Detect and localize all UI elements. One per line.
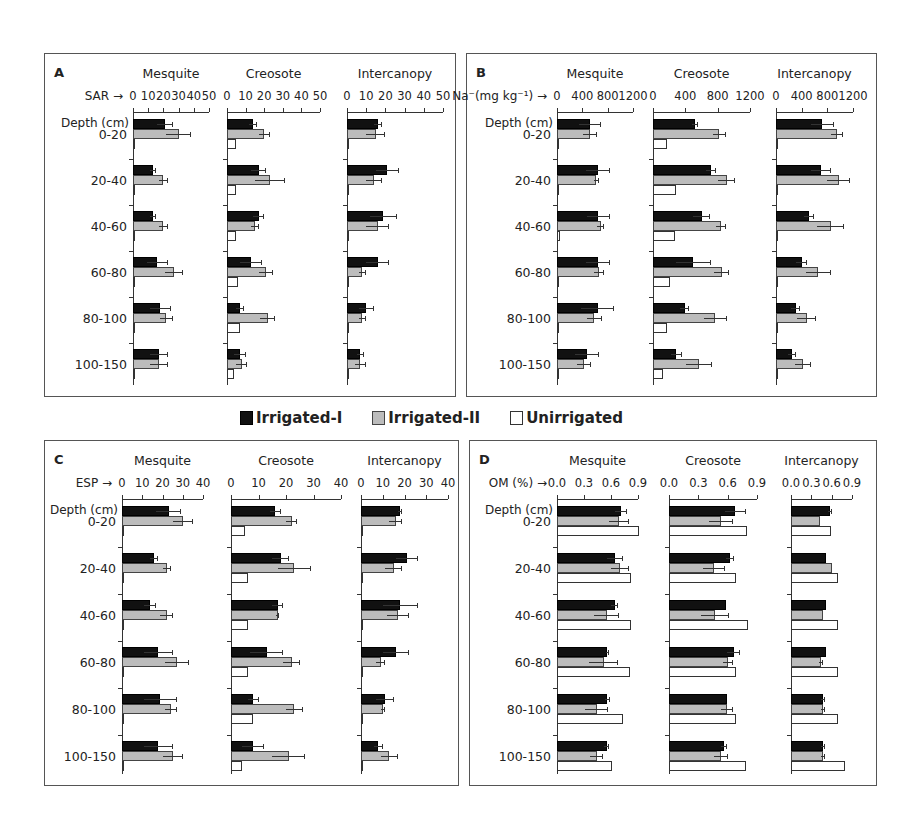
x-tick — [424, 108, 425, 112]
depth-label: 60-80 — [481, 655, 551, 670]
y-tick — [772, 251, 776, 252]
error-bar — [250, 652, 283, 653]
y-tick — [665, 641, 669, 642]
subplot-title: Creosote — [663, 453, 763, 468]
bar-irrigated-ii — [653, 175, 727, 185]
error-bar — [165, 272, 183, 273]
bar-unirrigated — [557, 620, 631, 630]
y-axis — [557, 112, 558, 385]
x-tick-label: 20 — [156, 89, 171, 103]
x-tick — [231, 495, 232, 499]
x-tick-label: 0 — [118, 476, 125, 490]
x-tick — [246, 108, 247, 112]
bar-unirrigated — [669, 620, 748, 630]
error-bar — [819, 662, 823, 663]
bar-irrigated-i — [669, 647, 734, 657]
bar-unirrigated — [122, 620, 124, 630]
x-tick — [366, 108, 367, 112]
x-tick — [183, 495, 184, 499]
error-bar — [396, 558, 418, 559]
bar-unirrigated — [122, 761, 124, 771]
x-axis — [133, 112, 209, 113]
x-tick — [608, 108, 609, 112]
bar-unirrigated — [791, 573, 838, 583]
error-bar — [676, 262, 712, 263]
bar-unirrigated — [231, 573, 248, 583]
x-tick — [728, 495, 729, 499]
x-tick-label: 400 — [674, 89, 696, 103]
y-tick — [129, 205, 133, 206]
x-tick — [405, 495, 406, 499]
depth-label: 60-80 — [481, 265, 551, 280]
y-tick — [118, 641, 122, 642]
error-bar — [827, 180, 850, 181]
x-tick — [385, 108, 386, 112]
error-bar — [577, 364, 591, 365]
y-tick — [227, 641, 231, 642]
depth-label: 40-60 — [481, 608, 551, 623]
bar-irrigated-ii — [791, 563, 832, 573]
bar-irrigated-ii — [231, 704, 294, 714]
depth-label: 20-40 — [481, 561, 551, 576]
subplot-title: Intercanopy — [772, 453, 872, 468]
y-tick — [357, 547, 361, 548]
error-bar — [585, 709, 608, 710]
x-tick-label: 40 — [294, 89, 309, 103]
x-tick — [179, 108, 180, 112]
x-tick-label: 1200 — [618, 89, 647, 103]
bar-unirrigated — [669, 761, 746, 771]
x-tick-label: 40 — [441, 476, 456, 490]
y-tick — [787, 641, 791, 642]
bar-unirrigated — [557, 573, 631, 583]
error-bar — [611, 568, 629, 569]
error-bar — [150, 216, 156, 217]
bar-irrigated-ii — [653, 221, 721, 231]
x-tick — [341, 495, 342, 499]
x-tick — [653, 108, 654, 112]
error-bar — [357, 354, 365, 355]
y-tick — [787, 688, 791, 689]
x-tick-label: 10 — [141, 89, 156, 103]
y-tick — [649, 159, 653, 160]
y-tick — [223, 205, 227, 206]
bar-unirrigated — [133, 369, 135, 379]
error-bar — [389, 521, 402, 522]
error-bar — [366, 262, 389, 263]
bar-unirrigated — [133, 277, 135, 287]
subplot-title: Mesquite — [113, 453, 213, 468]
error-bar — [718, 180, 736, 181]
y-tick — [118, 547, 122, 548]
bar-unirrigated — [776, 277, 778, 287]
x-axis — [231, 499, 341, 500]
error-bar — [366, 180, 381, 181]
x-axis — [653, 112, 750, 113]
error-bar — [821, 756, 825, 757]
error-bar — [159, 180, 168, 181]
y-axis — [347, 112, 348, 385]
x-axis — [791, 499, 852, 500]
error-bar — [249, 124, 256, 125]
error-bar — [671, 354, 682, 355]
bar-unirrigated — [776, 139, 778, 149]
y-tick — [665, 594, 669, 595]
bar-unirrigated — [557, 526, 639, 536]
x-tick-label: 10 — [238, 89, 253, 103]
x-tick — [142, 495, 143, 499]
error-bar — [156, 511, 180, 512]
bar-unirrigated — [122, 573, 124, 583]
bar-unirrigated — [133, 185, 135, 195]
error-bar — [144, 699, 176, 700]
error-bar — [150, 170, 156, 171]
error-bar — [253, 216, 264, 217]
bar-irrigated-ii — [791, 704, 823, 714]
bar-unirrigated — [133, 323, 135, 333]
bar-unirrigated — [776, 231, 778, 241]
bar-irrigated-i — [791, 553, 826, 563]
error-bar — [594, 615, 619, 616]
x-tick — [584, 495, 585, 499]
x-tick — [163, 495, 164, 499]
subplot-title: Mesquite — [548, 453, 648, 468]
bar-unirrigated — [653, 277, 670, 287]
x-tick-label: 10 — [251, 476, 266, 490]
error-bar — [165, 662, 189, 663]
